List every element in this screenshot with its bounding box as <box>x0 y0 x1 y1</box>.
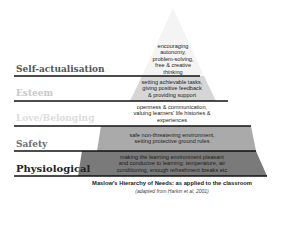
text-line: setting protective ground rules <box>129 138 214 144</box>
label-safety: Safety <box>16 139 47 149</box>
label-esteem: Esteem <box>16 88 53 98</box>
caption-source: (adapted from Harkin et al, 2001) <box>135 188 208 194</box>
text-self-actualisation: encouraging autonomy, problem-solving, f… <box>152 43 193 75</box>
text-line: giving positive feedback <box>142 85 203 91</box>
text-line: & providing support <box>142 92 203 98</box>
text-line: valuing learners' life histories & <box>134 110 211 116</box>
text-love-belonging: openness & communication, valuing learne… <box>134 104 211 123</box>
text-line: conditioning, enough refreshment breaks … <box>117 167 227 173</box>
text-line: and conducive to learning: temperature, … <box>117 160 227 166</box>
text-line: free & creative <box>152 62 193 68</box>
text-physiological: making the learning environment pleasant… <box>117 154 227 173</box>
label-self-actualisation: Self-actualisation <box>16 64 105 74</box>
text-safety: safe non-threatening environment, settin… <box>129 132 214 145</box>
label-love-belonging: Love/Belonging <box>16 113 94 123</box>
text-esteem: setting achievable tasks, giving positiv… <box>142 79 203 98</box>
caption-title: Maslow's Hierarchy of Needs: as applied … <box>92 180 252 186</box>
text-line: thinking <box>152 69 193 75</box>
label-physiological: Physiological <box>16 163 90 174</box>
text-line: experiences <box>134 117 211 123</box>
